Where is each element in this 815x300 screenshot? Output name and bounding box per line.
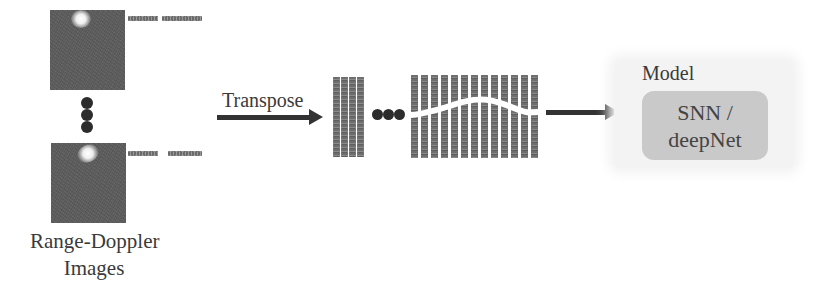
horizontal-ellipsis-dot-1 [372, 109, 383, 120]
spike-strip-bottom-b [168, 151, 202, 156]
model-box: SNN / deepNet [642, 91, 768, 160]
spike-column [349, 77, 356, 157]
model-line2: deepNet [668, 126, 741, 153]
vertical-ellipsis-dot-2 [81, 109, 93, 121]
model-title: Model [642, 62, 694, 85]
output-arrow-shaft [546, 110, 606, 115]
transpose-arrow-shaft [217, 115, 310, 120]
spike-strip-bottom-a [128, 151, 158, 156]
vertical-ellipsis-dot-3 [81, 121, 93, 133]
horizontal-ellipsis-dot-2 [383, 109, 394, 120]
range-doppler-image-top [50, 10, 125, 90]
spike-strip-top-a [128, 16, 158, 21]
spike-column [333, 77, 340, 157]
spike-train-group [411, 75, 538, 158]
target-trajectory-gap [411, 75, 538, 158]
spike-column [341, 77, 348, 157]
horizontal-ellipsis-dot-3 [394, 109, 405, 120]
spike-column [357, 77, 364, 157]
spike-strip-top-b [162, 16, 202, 21]
input-caption-line2: Images [30, 256, 158, 281]
right-arrow-icon [309, 109, 323, 125]
input-caption-line1: Range-Doppler [30, 229, 158, 254]
range-doppler-image-bottom [51, 143, 126, 223]
target-blob [74, 143, 101, 166]
vertical-ellipsis-dot-1 [81, 97, 93, 109]
transpose-label: Transpose [222, 89, 304, 112]
model-line1: SNN / [677, 99, 733, 126]
target-blob [71, 10, 91, 28]
